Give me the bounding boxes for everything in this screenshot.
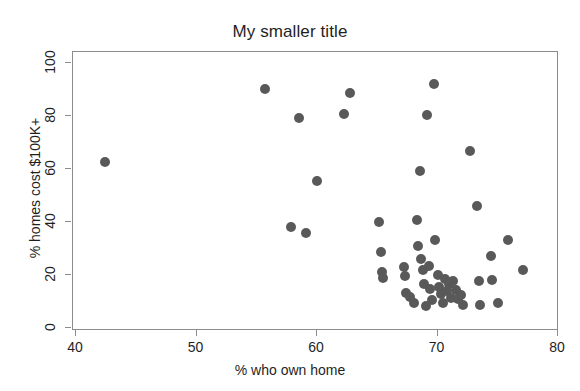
x-axis-tick-label: 80 <box>537 339 577 355</box>
y-axis-tick <box>65 62 71 63</box>
y-axis-tick <box>65 168 71 169</box>
x-axis-tick <box>75 330 76 336</box>
y-axis-tick <box>65 327 71 328</box>
scatter-plot-figure: My smaller title 4050607080020406080100 … <box>0 0 580 391</box>
x-axis-tick <box>196 330 197 336</box>
y-axis-tick <box>65 274 71 275</box>
x-axis-tick-label: 50 <box>176 339 216 355</box>
y-axis-tick <box>65 115 71 116</box>
y-axis-tick-label: 0 <box>42 315 58 339</box>
y-axis-tick <box>65 221 71 222</box>
y-axis-label: % homes cost $100K+ <box>27 68 43 308</box>
x-axis-tick-label: 70 <box>417 339 457 355</box>
x-axis-tick <box>316 330 317 336</box>
y-axis-tick-label: 20 <box>42 262 58 286</box>
y-axis-tick-label: 60 <box>42 156 58 180</box>
y-axis-tick-label: 40 <box>42 209 58 233</box>
x-axis-tick-label: 40 <box>55 339 95 355</box>
x-axis-label: % who own home <box>0 362 580 378</box>
x-axis-tick-label: 60 <box>296 339 336 355</box>
x-axis-tick <box>437 330 438 336</box>
page-title: My smaller title <box>0 22 580 42</box>
y-axis-tick-label: 100 <box>42 50 58 74</box>
plot-area <box>72 51 558 330</box>
x-axis-tick <box>557 330 558 336</box>
y-axis-tick-label: 80 <box>42 103 58 127</box>
